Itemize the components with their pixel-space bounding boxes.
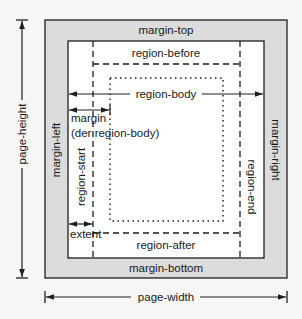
region-after-label: region-after: [137, 239, 196, 251]
page-layout-diagram: region-body margin (der region-body) ext…: [0, 0, 302, 319]
margin-label-line2: (der region-body): [71, 127, 159, 139]
extent-label: extent: [70, 228, 102, 240]
region-before-label: region-before: [132, 47, 200, 59]
margin-left-label: margin-left: [50, 122, 62, 177]
margin-right-label: margin-right: [270, 119, 282, 181]
margin-label-line1: margin: [71, 112, 106, 124]
region-body-label: region-body: [136, 88, 197, 100]
margin-bottom-label: margin-bottom: [129, 262, 203, 274]
region-start-label: region-start: [75, 147, 87, 206]
margin-top-label: margin-top: [139, 24, 194, 36]
region-end-label: region-end: [246, 160, 258, 215]
page-content-area: [68, 41, 264, 258]
page-height-label: page-height: [16, 103, 28, 165]
page-width-label: page-width: [138, 291, 194, 303]
